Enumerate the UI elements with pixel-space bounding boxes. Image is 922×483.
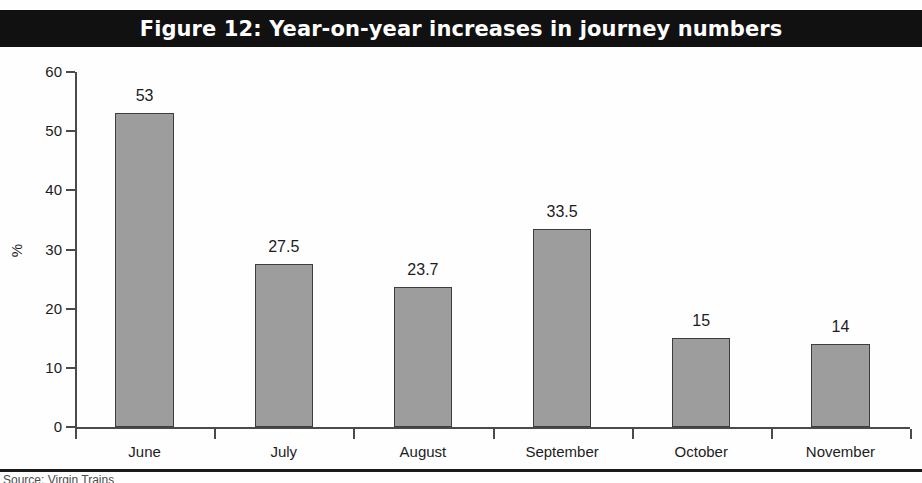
- footer-rule: [0, 469, 922, 472]
- bar: [533, 229, 591, 427]
- y-axis-tick: [66, 71, 75, 73]
- x-axis-tick: [910, 429, 912, 439]
- x-axis-tick: [493, 429, 495, 439]
- x-axis-tick: [75, 429, 77, 439]
- x-axis-category-label: November: [806, 443, 875, 460]
- y-axis-tick-label: 40: [16, 181, 62, 198]
- y-axis-tick: [66, 130, 75, 132]
- bar: [394, 287, 452, 427]
- bar-value-label: 15: [692, 312, 710, 330]
- x-axis-tick: [771, 429, 773, 439]
- bar-value-label: 27.5: [268, 238, 299, 256]
- plot-area: % 0102030405060 5327.523.733.51514 JuneJ…: [0, 47, 922, 483]
- bar: [255, 264, 313, 427]
- x-axis-category-label: June: [128, 443, 161, 460]
- y-axis-tick-label: 30: [16, 241, 62, 258]
- x-axis-tick: [632, 429, 634, 439]
- figure-title: Figure 12: Year-on-year increases in jou…: [140, 17, 783, 41]
- y-axis-tick-label: 50: [16, 122, 62, 139]
- y-axis-line: [75, 72, 77, 429]
- y-axis-tick: [66, 249, 75, 251]
- y-axis-tick: [66, 367, 75, 369]
- y-axis-tick: [66, 426, 75, 428]
- bar-value-label: 14: [832, 318, 850, 336]
- y-axis-tick-label: 20: [16, 300, 62, 317]
- y-axis-tick: [66, 189, 75, 191]
- x-axis-category-label: September: [525, 443, 598, 460]
- bar: [672, 338, 730, 427]
- bar: [115, 113, 173, 427]
- bar-value-label: 33.5: [547, 203, 578, 221]
- y-axis-tick-label: 10: [16, 359, 62, 376]
- x-axis-tick: [353, 429, 355, 439]
- source-note: Source: Virgin Trains: [3, 473, 114, 483]
- y-axis-tick: [66, 308, 75, 310]
- bar-value-label: 53: [136, 87, 154, 105]
- y-axis-tick-label: 0: [16, 418, 62, 435]
- x-axis-category-label: August: [400, 443, 447, 460]
- bar-value-label: 23.7: [407, 261, 438, 279]
- figure-title-bar: Figure 12: Year-on-year increases in jou…: [0, 10, 922, 47]
- x-axis-category-label: July: [270, 443, 297, 460]
- y-axis-tick-label: 60: [16, 63, 62, 80]
- x-axis-tick: [214, 429, 216, 439]
- bar: [811, 344, 869, 427]
- figure-container: Figure 12: Year-on-year increases in jou…: [0, 0, 922, 483]
- x-axis-category-label: October: [675, 443, 728, 460]
